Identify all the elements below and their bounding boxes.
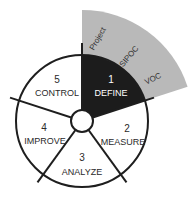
dmaic-diagram: 1 DEFINE 2 MEASURE 3 ANALYZE 4 IMPROVE 5… [0, 0, 196, 198]
phase-number: 1 [108, 74, 114, 85]
phase-name: CONTROL [35, 88, 79, 98]
phase-name: DEFINE [94, 88, 127, 98]
phase-number: 2 [124, 123, 130, 134]
phase-name: MEASURE [101, 137, 146, 147]
phase-number: 3 [79, 152, 85, 163]
center-hub [71, 110, 93, 132]
phase-number: 5 [54, 74, 60, 85]
phase-number: 4 [41, 122, 47, 133]
phase-name: ANALYZE [62, 167, 102, 177]
phase-name: IMPROVE [24, 136, 66, 146]
